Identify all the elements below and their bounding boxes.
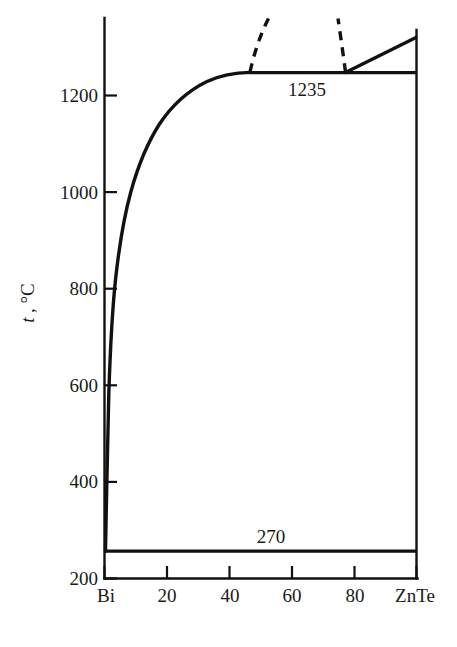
y-axis-title-symbol: t — [17, 317, 38, 323]
annotation-270: 270 — [257, 526, 286, 547]
y-axis-title-units: , °C — [17, 283, 38, 313]
x-tick-label-znte: ZnTe — [395, 585, 435, 606]
x-tick-label-80: 80 — [346, 585, 365, 606]
y-tick-label-1200: 1200 — [60, 85, 98, 106]
y-tick-label-1000: 1000 — [60, 182, 98, 203]
y-tick-label-800: 800 — [70, 278, 99, 299]
y-tick-label-400: 400 — [70, 471, 99, 492]
annotation-1235: 1235 — [288, 79, 326, 100]
y-tick-label-200: 200 — [70, 568, 99, 589]
x-tick-label-bi: Bi — [97, 585, 115, 606]
y-tick-label-600: 600 — [70, 375, 99, 396]
x-tick-label-40: 40 — [221, 585, 240, 606]
x-tick-label-20: 20 — [158, 585, 177, 606]
x-tick-label-60: 60 — [283, 585, 302, 606]
phase-diagram-chart: 200 400 600 800 1000 1200 t , °C Bi 20 4… — [0, 0, 457, 647]
